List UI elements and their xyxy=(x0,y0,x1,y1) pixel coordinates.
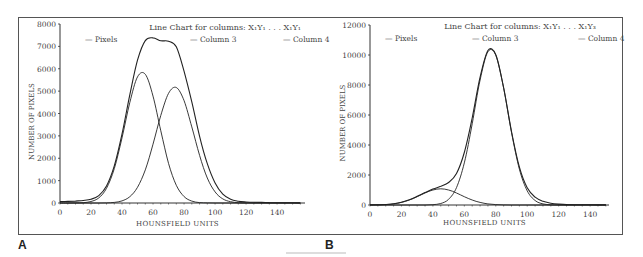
chart-a-x-tick-label: 20 xyxy=(86,208,96,217)
chart-b-x-tick-label: 40 xyxy=(428,210,438,219)
chart-a-y-tick-label: 1000 xyxy=(37,177,56,186)
chart-b-y-tick-label: 6000 xyxy=(347,111,366,120)
chart-b-legend-item-column-4: — Column 4 xyxy=(578,34,625,43)
chart-a-y-tick-label: 5000 xyxy=(37,87,56,96)
chart-a-x-tick-label: 120 xyxy=(239,208,254,217)
chart-b-x-tick-label: 140 xyxy=(583,210,598,219)
chart-a-y-tick-label: 4000 xyxy=(37,110,56,119)
chart-a-y-tick-label: 7000 xyxy=(37,42,56,51)
chart-a-legend-item-pixels: — Pixels xyxy=(85,35,117,44)
chart-a-y-tick-label: 6000 xyxy=(37,65,56,74)
chart-b-series-column-4 xyxy=(370,49,606,205)
chart-b-y-tick-label: 4000 xyxy=(347,141,366,150)
chart-a-y-tick-label: 0 xyxy=(51,199,56,208)
chart-a-y-tick-label: 3000 xyxy=(37,132,56,141)
figure-caption-trace xyxy=(286,252,346,254)
chart-b-x-tick-label: 0 xyxy=(368,210,373,219)
chart-b-y-tick-label: 2000 xyxy=(347,171,366,180)
chart-b-x-axis-label: HOUNSFIELD UNITS xyxy=(443,219,526,227)
chart-b-legend-item-column-3: — Column 3 xyxy=(472,34,519,43)
panel-label-b: B xyxy=(325,238,334,252)
chart-a-series-pixels xyxy=(60,38,300,203)
chart-b-legend-item-pixels: — Pixels xyxy=(385,34,417,43)
chart-b-y-tick-label: 8000 xyxy=(347,81,366,90)
chart-b-y-tick-label: 0 xyxy=(361,201,366,210)
panel-label-a: A xyxy=(18,238,27,252)
chart-b-y-tick-label: 10000 xyxy=(342,51,366,60)
chart-a-y-tick-label: 2000 xyxy=(37,154,56,163)
chart-b-y-tick-label: 12000 xyxy=(342,21,366,30)
chart-a-legend-item-column-3: — Column 3 xyxy=(190,35,237,44)
chart-b-x-tick-label: 60 xyxy=(460,210,470,219)
chart-a-x-axis-label: HOUNSFIELD UNITS xyxy=(136,220,219,228)
chart-a-legend-item-column-4: — Column 4 xyxy=(283,35,330,44)
chart-a-x-tick-label: 60 xyxy=(148,208,158,217)
chart-b-y-axis-label: NUMBER OF PIXELS xyxy=(339,84,347,161)
chart-b-x-tick-label: 80 xyxy=(491,210,501,219)
chart-b-series-pixels xyxy=(370,49,606,205)
chart-a-series-column-4 xyxy=(60,87,300,203)
chart-a-x-tick-label: 80 xyxy=(179,208,189,217)
chart-a-x-tick-label: 140 xyxy=(270,208,285,217)
chart-b-x-tick-label: 20 xyxy=(397,210,407,219)
chart-a-x-tick-label: 100 xyxy=(208,208,223,217)
chart-a-x-tick-label: 0 xyxy=(58,208,63,217)
chart-b-x-tick-label: 100 xyxy=(520,210,535,219)
chart-a-y-tick-label: 8000 xyxy=(37,20,56,29)
chart-b-x-tick-label: 120 xyxy=(552,210,567,219)
chart-b-title: Line Chart for columns: X₁Y₁ . . . X₁Y₃ xyxy=(444,22,596,31)
chart-a-x-tick-label: 40 xyxy=(117,208,127,217)
chart-a-y-axis-label: NUMBER OF PIXELS xyxy=(28,83,36,160)
chart-a-title: Line Chart for columns: X₁Y₁ . . . X₁Y₁ xyxy=(149,23,301,32)
chart-panel-a: 0100020003000400050006000700080000204060… xyxy=(0,0,643,257)
chart-b-series-column-3 xyxy=(370,189,606,205)
